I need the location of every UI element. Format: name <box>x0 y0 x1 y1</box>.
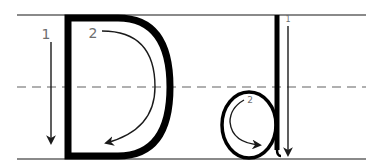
lowercase-stroke-2-arrow <box>230 100 260 145</box>
lowercase-stroke-1-number: 1 <box>285 15 290 24</box>
uppercase-stroke-2-number: 2 <box>89 25 98 41</box>
lowercase-stroke-2-number: 2 <box>247 95 253 105</box>
handwriting-diagram: 1 2 1 2 <box>0 0 384 164</box>
uppercase-stroke-1-number: 1 <box>42 26 51 42</box>
